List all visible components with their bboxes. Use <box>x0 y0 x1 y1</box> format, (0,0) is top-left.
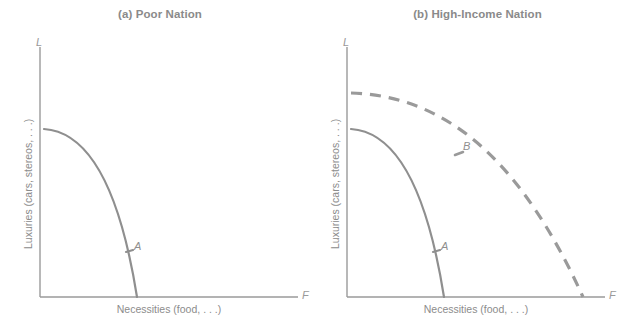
x-axis-label: Necessities (food, . . .) <box>347 303 605 315</box>
panel-b-plot <box>320 0 635 326</box>
x-axis-letter: F <box>302 289 309 301</box>
y-axis-letter: L <box>343 36 349 48</box>
y-axis-label: Luxuries (cars, stereos, . . .) <box>22 119 34 249</box>
curve-inner-ppf <box>351 129 444 297</box>
y-axis-letter: L <box>36 36 42 48</box>
point-label-a: A <box>441 240 448 252</box>
panel-high-income-nation: (b) High-Income Nation L F A B Luxuries … <box>320 0 635 326</box>
point-b-marker <box>455 152 463 155</box>
panel-poor-nation: (a) Poor Nation L F A Luxuries (cars, st… <box>0 0 320 326</box>
point-label-b: B <box>463 140 470 152</box>
x-axis-letter: F <box>609 289 616 301</box>
y-axis-label: Luxuries (cars, stereos, . . .) <box>329 119 341 249</box>
panel-a-plot <box>0 0 320 326</box>
ppf-figure: (a) Poor Nation L F A Luxuries (cars, st… <box>0 0 635 326</box>
curve-outer-ppf <box>351 93 583 297</box>
curve-domestic-ppf <box>44 129 137 297</box>
point-label-a: A <box>134 240 141 252</box>
x-axis-label: Necessities (food, . . .) <box>40 303 298 315</box>
